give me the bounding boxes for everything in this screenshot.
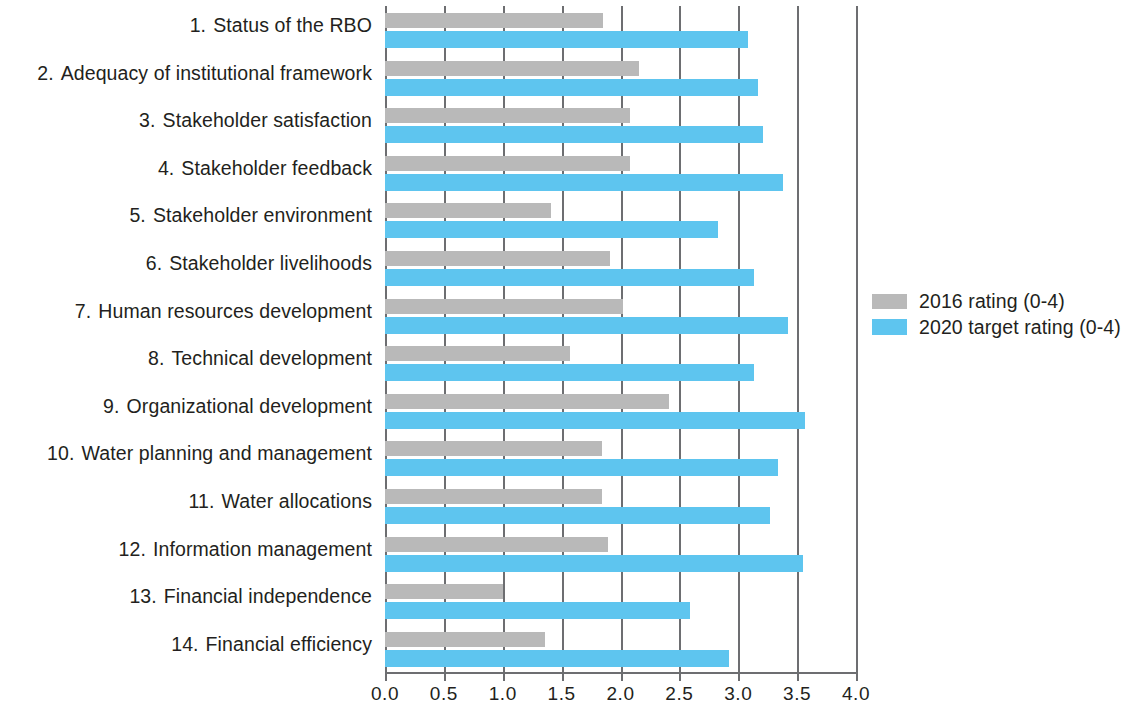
bar-2020-target-rating <box>385 221 718 238</box>
bar-2016-rating <box>385 203 551 218</box>
category-number: 10. <box>47 442 74 464</box>
horizontal-bar-chart: 1.Status of the RBO2.Adequacy of institu… <box>0 0 1135 713</box>
bar-2016-rating <box>385 108 630 123</box>
x-axis-tick <box>797 672 799 681</box>
category-text: Financial efficiency <box>206 633 372 655</box>
category-label: 12.Information management <box>0 538 372 560</box>
legend-label: 2020 target rating (0-4) <box>919 316 1121 339</box>
x-axis-tick <box>503 672 505 681</box>
category-label: 9.Organizational development <box>0 395 372 417</box>
bar-2016-rating <box>385 156 630 171</box>
category-number: 5. <box>129 204 145 226</box>
category-label: 3.Stakeholder satisfaction <box>0 109 372 131</box>
category-label: 10.Water planning and management <box>0 442 372 464</box>
category-number: 13. <box>129 585 156 607</box>
category-text: Financial independence <box>164 585 372 607</box>
x-axis-tick-label: 4.0 <box>826 683 886 705</box>
x-axis-tick-label: 0.0 <box>355 683 415 705</box>
bar-2020-target-rating <box>385 79 758 96</box>
x-axis-tick-label: 3.5 <box>767 683 827 705</box>
gridline <box>562 6 564 672</box>
category-label: 8.Technical development <box>0 347 372 369</box>
x-axis-tick-label: 2.5 <box>649 683 709 705</box>
category-number: 2. <box>37 62 53 84</box>
category-text: Status of the RBO <box>213 14 372 36</box>
gridline <box>797 6 799 672</box>
category-label: 5.Stakeholder environment <box>0 204 372 226</box>
bar-2020-target-rating <box>385 364 754 381</box>
x-axis-tick <box>738 672 740 681</box>
x-axis-tick <box>385 672 387 681</box>
x-axis-tick <box>444 672 446 681</box>
gridline <box>856 6 858 672</box>
category-text: Technical development <box>172 347 372 369</box>
category-number: 9. <box>103 395 119 417</box>
bar-2016-rating <box>385 299 623 314</box>
bar-2020-target-rating <box>385 602 690 619</box>
category-number: 11. <box>188 490 214 512</box>
x-axis-tick-label: 3.0 <box>708 683 768 705</box>
x-axis-tick-label: 1.0 <box>473 683 533 705</box>
category-label: 14.Financial efficiency <box>0 633 372 655</box>
x-axis-tick <box>856 672 858 681</box>
gridline <box>503 6 505 672</box>
bar-2016-rating <box>385 394 669 409</box>
category-text: Adequacy of institutional framework <box>61 62 372 84</box>
bar-2020-target-rating <box>385 555 803 572</box>
category-label-column: 1.Status of the RBO2.Adequacy of institu… <box>0 0 378 672</box>
bar-2016-rating <box>385 584 503 599</box>
category-number: 7. <box>75 300 91 322</box>
bar-2020-target-rating <box>385 507 770 524</box>
category-text: Stakeholder satisfaction <box>163 109 372 131</box>
chart-legend: 2016 rating (0-4)2020 target rating (0-4… <box>872 288 1121 340</box>
x-axis-tick-label: 1.5 <box>532 683 592 705</box>
category-label: 1.Status of the RBO <box>0 14 372 36</box>
category-label: 13.Financial independence <box>0 585 372 607</box>
category-text: Organizational development <box>127 395 372 417</box>
bar-2020-target-rating <box>385 317 788 334</box>
bar-2020-target-rating <box>385 31 748 48</box>
x-axis-tick <box>679 672 681 681</box>
category-label: 4.Stakeholder feedback <box>0 157 372 179</box>
bar-2016-rating <box>385 13 603 28</box>
category-text: Water planning and management <box>81 442 372 464</box>
category-text: Stakeholder livelihoods <box>169 252 372 274</box>
category-number: 12. <box>119 538 146 560</box>
bar-2016-rating <box>385 346 570 361</box>
legend-swatch-icon <box>872 294 907 309</box>
category-label: 6.Stakeholder livelihoods <box>0 252 372 274</box>
category-text: Human resources development <box>98 300 372 322</box>
x-axis-tick-label: 2.0 <box>591 683 651 705</box>
bar-2020-target-rating <box>385 650 729 667</box>
bar-2016-rating <box>385 441 602 456</box>
legend-swatch-icon <box>872 319 907 335</box>
bar-2020-target-rating <box>385 269 754 286</box>
category-number: 1. <box>190 14 206 36</box>
category-number: 4. <box>158 157 174 179</box>
bar-2020-target-rating <box>385 412 805 429</box>
legend-item: 2020 target rating (0-4) <box>872 314 1121 340</box>
gridline <box>621 6 623 672</box>
legend-label: 2016 rating (0-4) <box>919 290 1065 313</box>
category-number: 6. <box>146 252 162 274</box>
x-axis-tick <box>562 672 564 681</box>
gridline <box>679 6 681 672</box>
category-label: 7.Human resources development <box>0 300 372 322</box>
bar-2016-rating <box>385 537 608 552</box>
bar-2016-rating <box>385 251 610 266</box>
category-text: Stakeholder feedback <box>181 157 372 179</box>
category-label: 11.Water allocations <box>0 490 372 512</box>
x-axis-tick-label: 0.5 <box>414 683 474 705</box>
bar-2020-target-rating <box>385 459 778 476</box>
gridline <box>385 6 387 672</box>
category-text: Water allocations <box>221 490 372 512</box>
bar-2016-rating <box>385 632 545 647</box>
category-number: 8. <box>148 347 164 369</box>
category-label: 2.Adequacy of institutional framework <box>0 62 372 84</box>
gridline <box>738 6 740 672</box>
plot-area <box>385 6 856 672</box>
bar-2020-target-rating <box>385 174 783 191</box>
bar-2020-target-rating <box>385 126 763 143</box>
category-number: 14. <box>171 633 198 655</box>
bar-2016-rating <box>385 61 639 76</box>
